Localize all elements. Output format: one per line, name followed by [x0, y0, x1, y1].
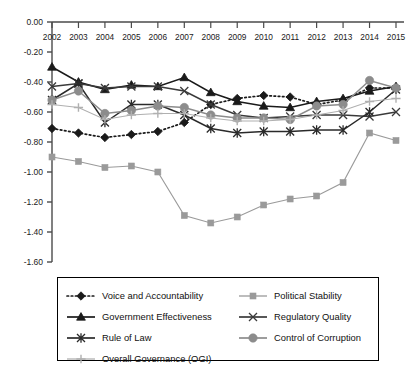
legend-label: Voice and Accountability	[102, 290, 203, 301]
y-axis: 0.00-0.20-0.40-0.60-0.80-1.00-1.20-1.40-…	[24, 17, 52, 267]
legend-row: Rule of LawControl of Corruption	[66, 327, 372, 348]
y-axis-tick-label: -1.20	[24, 197, 44, 207]
chart-legend: Voice and AccountabilityPolitical Stabil…	[57, 277, 379, 361]
x-axis-tick-label: 2008	[202, 32, 221, 42]
y-axis-tick-label: -0.20	[24, 47, 44, 57]
x-axis-tick-label: 2006	[149, 32, 168, 42]
y-axis-tick-label: -0.60	[24, 107, 44, 117]
series-layer	[47, 63, 400, 226]
legend-item-overall-governance-ogi[interactable]: Overall Governance (OGI)	[66, 352, 238, 366]
x-axis-tick-label: 2012	[307, 32, 326, 42]
legend-label: Political Stability	[274, 290, 342, 301]
x-axis-tick-label: 2014	[360, 32, 379, 42]
legend-label: Government Effectiveness	[102, 311, 212, 322]
x-axis-tick-label: 2004	[96, 32, 115, 42]
y-axis-tick-label: -1.60	[24, 257, 44, 267]
y-axis-tick-label: 0.00	[26, 17, 43, 27]
x-axis-tick-label: 2007	[175, 32, 194, 42]
legend-marker-icon	[66, 331, 96, 345]
x-axis-tick-label: 2009	[228, 32, 247, 42]
y-axis-tick-label: -1.00	[24, 167, 44, 177]
chart-canvas: 0.00-0.20-0.40-0.60-0.80-1.00-1.20-1.40-…	[0, 0, 408, 272]
legend-item-rule-of-law[interactable]: Rule of Law	[66, 331, 238, 345]
legend-marker-icon	[238, 310, 268, 324]
x-axis-tick-label: 2015	[387, 32, 406, 42]
legend-label: Rule of Law	[102, 332, 152, 343]
x-axis-tick-label: 2010	[254, 32, 273, 42]
legend-item-political-stability[interactable]: Political Stability	[238, 289, 372, 303]
legend-item-voice-and-accountability[interactable]: Voice and Accountability	[66, 289, 238, 303]
x-axis-tick-label: 2011	[281, 32, 299, 42]
chart-root: 0.00-0.20-0.40-0.60-0.80-1.00-1.20-1.40-…	[0, 0, 408, 376]
x-axis-tick-label: 2002	[43, 32, 62, 42]
legend-label: Control of Corruption	[274, 332, 361, 343]
legend-marker-icon	[238, 289, 268, 303]
legend-marker-icon	[66, 310, 96, 324]
legend-label: Regulatory Quality	[274, 311, 351, 322]
legend-item-regulatory-quality[interactable]: Regulatory Quality	[238, 310, 372, 324]
line-chart: 0.00-0.20-0.40-0.60-0.80-1.00-1.20-1.40-…	[0, 0, 408, 272]
legend-grid: Voice and AccountabilityPolitical Stabil…	[66, 285, 372, 369]
series-line	[52, 133, 396, 223]
legend-label: Overall Governance (OGI)	[102, 353, 211, 364]
y-axis-tick-label: -0.40	[24, 77, 44, 87]
legend-row: Overall Governance (OGI)	[66, 348, 372, 369]
legend-item-control-of-corruption[interactable]: Control of Corruption	[238, 331, 372, 345]
x-axis-tick-label: 2003	[69, 32, 88, 42]
legend-item-government-effectiveness[interactable]: Government Effectiveness	[66, 310, 238, 324]
x-axis-tick-label: 2005	[122, 32, 141, 42]
series-political-stability	[49, 130, 399, 226]
legend-row: Government EffectivenessRegulatory Quali…	[66, 306, 372, 327]
legend-marker-icon	[238, 331, 268, 345]
legend-row: Voice and AccountabilityPolitical Stabil…	[66, 285, 372, 306]
x-axis: 2002200320042005200620072008200920102011…	[43, 22, 406, 42]
legend-marker-icon	[66, 289, 96, 303]
legend-marker-icon	[66, 352, 96, 366]
y-axis-tick-label: -1.40	[24, 227, 44, 237]
x-axis-tick-label: 2013	[334, 32, 353, 42]
y-axis-tick-label: -0.80	[24, 137, 44, 147]
